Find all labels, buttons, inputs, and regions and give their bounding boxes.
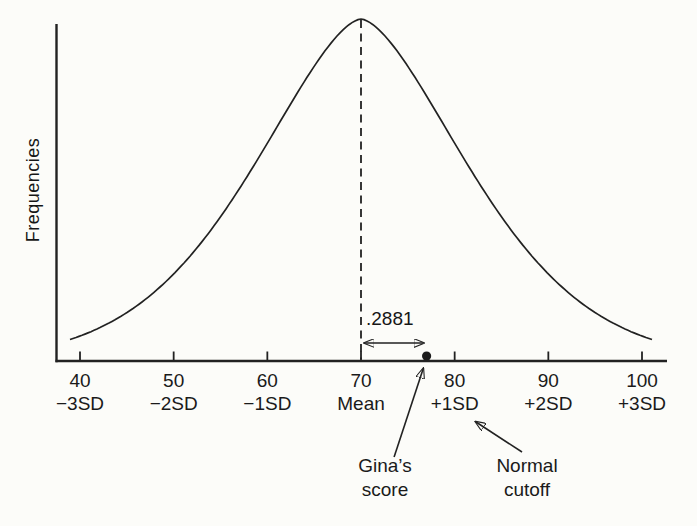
normal-cutoff-label-line1: Normal <box>482 454 572 478</box>
normal-cutoff-label-line2: cutoff <box>482 478 572 502</box>
gina-score-label-line1: Gina’s <box>340 454 430 478</box>
gina-score-label: Gina’s score <box>340 454 430 502</box>
gina-score-dot <box>422 351 431 360</box>
distribution-plot <box>0 0 697 526</box>
normal-cutoff-label: Normal cutoff <box>482 454 572 502</box>
normal-cutoff-arrow <box>476 422 522 452</box>
y-axis-label: Frequencies <box>22 120 44 260</box>
x-axis-ticks <box>80 352 642 361</box>
distance-annotation: .2881 <box>366 308 414 330</box>
gina-score-label-line2: score <box>340 478 430 502</box>
gina-score-arrow <box>394 369 423 457</box>
